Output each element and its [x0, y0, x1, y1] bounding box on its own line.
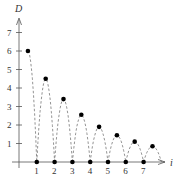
- data-point: [35, 160, 40, 165]
- x-tick-label: 6: [123, 166, 128, 176]
- x-axis-title: i: [170, 157, 173, 168]
- bounce-arc: [28, 51, 37, 162]
- axes: [12, 18, 165, 168]
- data-points: [26, 49, 155, 165]
- data-point: [124, 160, 129, 165]
- bounce-arc: [37, 79, 55, 162]
- bounce-arc: [126, 142, 144, 162]
- y-axis-title: D: [14, 3, 23, 14]
- bounce-arc: [55, 99, 73, 162]
- y-tick-label: 7: [7, 28, 12, 38]
- data-point: [79, 113, 84, 118]
- data-point: [43, 76, 48, 81]
- y-tick-label: 5: [7, 65, 12, 75]
- data-point: [150, 144, 155, 149]
- x-tick-label: 7: [141, 166, 146, 176]
- y-tick-label: 3: [7, 102, 12, 112]
- bounce-arc: [90, 127, 108, 162]
- x-tick-label: 4: [88, 166, 93, 176]
- x-tick-label: 1: [34, 166, 39, 176]
- data-point: [141, 160, 146, 165]
- bounce-arc: [72, 115, 90, 162]
- data-point: [70, 160, 75, 165]
- data-point: [106, 160, 111, 165]
- dashed-arcs: [28, 51, 162, 162]
- y-tick-label: 6: [7, 46, 12, 56]
- data-point: [88, 160, 93, 165]
- data-point: [26, 49, 31, 54]
- x-tick-label: 3: [70, 166, 75, 176]
- x-tick-label: 5: [106, 166, 111, 176]
- data-point: [115, 133, 120, 138]
- y-tick-label: 1: [7, 139, 12, 149]
- bouncing-ball-chart: 12345671234567 D i: [0, 0, 183, 188]
- data-point: [97, 125, 102, 130]
- data-point: [52, 160, 57, 165]
- y-tick-label: 2: [7, 120, 12, 130]
- data-point: [61, 97, 66, 102]
- bounce-arc: [108, 135, 126, 162]
- y-tick-label: 4: [7, 83, 12, 93]
- x-tick-label: 2: [52, 166, 57, 176]
- data-point: [132, 139, 137, 144]
